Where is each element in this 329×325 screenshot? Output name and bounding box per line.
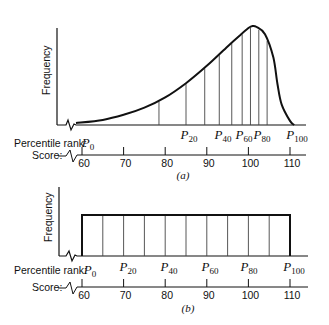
score-tick-label: 90 xyxy=(203,289,215,301)
score-tick-label: 60 xyxy=(78,157,90,169)
percentile-label: P80 xyxy=(253,127,271,144)
panel-a-score-axis xyxy=(58,150,306,162)
panel-a-score-row-label: Score: xyxy=(32,149,62,161)
percentile-label: P40 xyxy=(214,127,232,144)
percentile-label: P100 xyxy=(282,259,305,276)
percentile-label: P80 xyxy=(240,259,258,276)
panel-a-percentile-labels: P0P20P40P60P80P100 xyxy=(81,127,308,152)
score-tick-label: 110 xyxy=(284,157,301,169)
score-tick-label: 60 xyxy=(78,289,90,301)
panel-b-score-ticks: 60708090100110 xyxy=(78,279,300,301)
panel-b-percentile-labels: P0P20P40P60P80P100 xyxy=(83,259,305,279)
percentile-label: P60 xyxy=(201,259,219,276)
score-tick-label: 70 xyxy=(120,289,132,301)
panel-a-score-ticks: 60708090100110 xyxy=(78,147,300,169)
percentile-label: P60 xyxy=(235,127,253,144)
percentile-label: P100 xyxy=(285,127,308,144)
panel-b-ylabel: Frequency xyxy=(42,192,54,242)
panel-b-decile-lines xyxy=(103,215,269,256)
score-tick-label: 100 xyxy=(242,157,260,169)
score-tick-label: 90 xyxy=(203,157,215,169)
score-tick-label: 110 xyxy=(284,289,301,301)
panel-b-caption: (b) xyxy=(182,302,195,315)
percentile-figure: Frequency P0P20P40P60P80P100 Percentile … xyxy=(0,0,329,325)
panel-a-percentile-row-label: Percentile rank: xyxy=(14,137,87,149)
panel-a-distribution-curve xyxy=(76,26,294,125)
score-tick-label: 70 xyxy=(120,157,132,169)
panel-a-caption: (a) xyxy=(177,169,190,182)
percentile-label: P20 xyxy=(119,259,137,276)
panel-b-score-axis xyxy=(58,282,308,294)
panel-b-score-row-label: Score: xyxy=(32,281,62,293)
percentile-label: P40 xyxy=(160,259,178,276)
panel-a-ylabel: Frequency xyxy=(40,45,52,95)
score-tick-label: 100 xyxy=(242,289,260,301)
percentile-label: P20 xyxy=(180,127,198,144)
panel-b-percentile-row-label: Percentile rank: xyxy=(14,264,87,276)
panel-a: Frequency P0P20P40P60P80P100 Percentile … xyxy=(14,26,308,182)
panel-b: Frequency P0P20P40P60P80P100 Percentile … xyxy=(14,187,308,315)
score-tick-label: 80 xyxy=(161,289,173,301)
panel-b-x-axis xyxy=(59,251,308,261)
panel-a-decile-lines xyxy=(159,28,267,125)
score-tick-label: 80 xyxy=(161,157,173,169)
